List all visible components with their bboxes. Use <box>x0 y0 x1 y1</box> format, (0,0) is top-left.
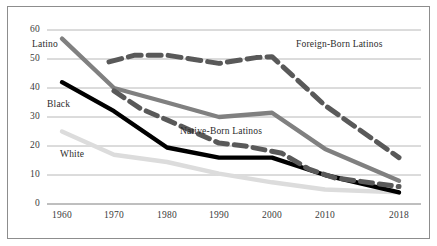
y-tick-50: 50 <box>16 53 40 63</box>
series-label-white: White <box>60 149 84 159</box>
chart-container: 60 50 40 30 20 10 0 1960 1970 1980 1990 … <box>0 0 437 246</box>
x-tick-2018: 2018 <box>379 210 419 220</box>
y-tick-0: 0 <box>16 198 40 208</box>
x-tick-2010: 2010 <box>305 210 345 220</box>
series-label-foreign-born-latinos: Foreign-Born Latinos <box>296 39 383 49</box>
x-tick-2000: 2000 <box>252 210 292 220</box>
series-line-white <box>62 132 399 193</box>
series-label-native-born-latinos: Native-Born Latinos <box>180 126 262 136</box>
x-tick-1980: 1980 <box>147 210 187 220</box>
y-tick-40: 40 <box>16 82 40 92</box>
y-tick-60: 60 <box>16 24 40 34</box>
x-tick-1960: 1960 <box>42 210 82 220</box>
series-line-foreign-born-latinos <box>109 55 399 157</box>
y-tick-20: 20 <box>16 140 40 150</box>
series-label-black: Black <box>47 99 70 109</box>
x-tick-1970: 1970 <box>94 210 134 220</box>
series-label-latino: Latino <box>32 39 58 49</box>
x-tick-1990: 1990 <box>199 210 239 220</box>
gridlines <box>47 30 421 175</box>
y-tick-10: 10 <box>16 169 40 179</box>
y-tick-30: 30 <box>16 111 40 121</box>
